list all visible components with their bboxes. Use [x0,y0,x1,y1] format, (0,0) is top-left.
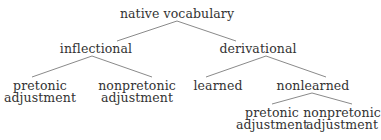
node-label: nonlearned [277,80,350,92]
node-nonlearned-nonpretonic-adjustment: nonpretonic adjustment [303,107,381,131]
node-label-line-2: adjustment [4,92,76,104]
node-label-line-2: adjustment [303,119,381,131]
edge-root-derivational [177,21,236,41]
node-label: derivational [219,43,296,55]
edge-nonlearned-pretonic [272,93,312,104]
node-label: learned [194,80,243,92]
node-inflectional-nonpretonic-adjustment: nonpretonic adjustment [98,80,176,104]
edge-inflectional-nonpretonic [92,56,152,77]
node-learned: learned [194,80,243,92]
node-inflectional-pretonic-adjustment: pretonic adjustment [4,80,76,104]
node-label: native vocabulary [120,8,234,20]
edge-root-inflectional [117,21,177,41]
node-label-line-2: adjustment [98,92,176,104]
node-derivational: derivational [219,43,296,55]
node-nonlearned-pretonic-adjustment: pretonic adjustment [236,107,308,131]
node-label: inflectional [60,43,132,55]
node-inflectional: inflectional [60,43,132,55]
node-nonlearned: nonlearned [277,80,350,92]
edge-derivational-nonlearned [266,56,326,77]
node-native-vocabulary: native vocabulary [120,8,234,20]
edge-derivational-learned [206,56,266,77]
edge-nonlearned-nonpretonic [312,93,352,104]
node-label-line-2: adjustment [236,119,308,131]
edge-inflectional-pretonic [32,56,92,77]
